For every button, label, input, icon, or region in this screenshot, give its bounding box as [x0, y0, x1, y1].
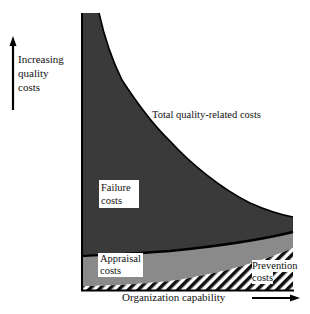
y-axis-label: Increasing quality costs	[18, 52, 64, 94]
appraisal-label-line-1: Appraisal	[100, 253, 141, 265]
failure-costs-area	[82, 13, 293, 256]
y-label-line-3: costs	[18, 80, 64, 94]
y-axis-arrow-icon	[10, 36, 17, 110]
appraisal-label-line-2: costs	[100, 265, 141, 277]
y-label-line-2: quality	[18, 66, 64, 80]
total-costs-label: Total quality-related costs	[152, 109, 261, 120]
appraisal-costs-label: Appraisal costs	[98, 253, 143, 277]
prevention-label-line-1: Prevention	[252, 260, 298, 272]
failure-label-line-1: Failure	[101, 181, 137, 194]
x-axis-arrow-icon	[252, 295, 300, 302]
failure-costs-label: Failure costs	[99, 180, 139, 208]
prevention-costs-label: Prevention costs	[252, 260, 310, 284]
x-axis-label: Organization capability	[122, 291, 225, 303]
prevention-label-line-2: costs	[252, 272, 273, 284]
y-label-line-1: Increasing	[18, 52, 64, 66]
failure-label-line-2: costs	[101, 194, 137, 207]
